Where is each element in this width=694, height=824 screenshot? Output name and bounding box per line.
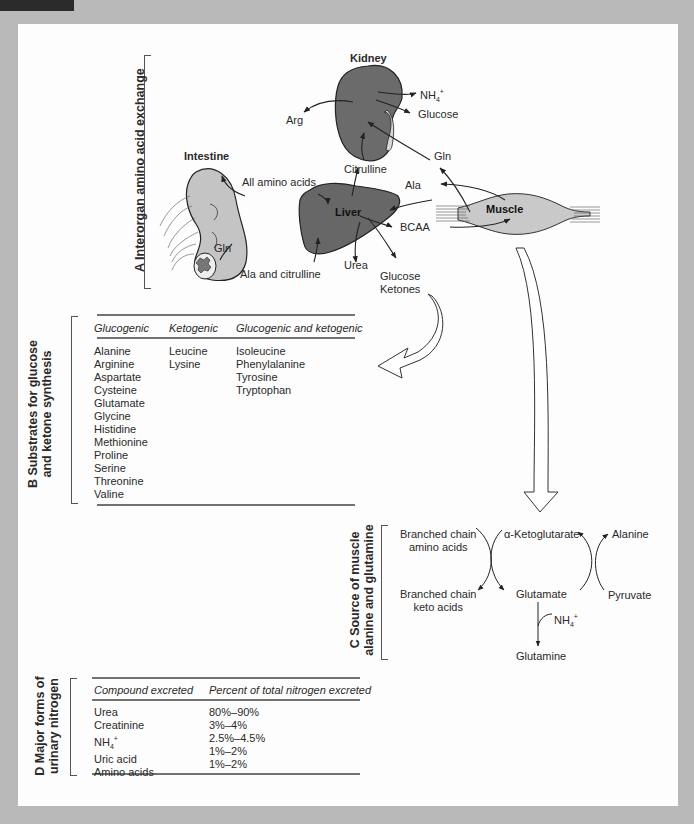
liver-label: Liver [335, 206, 361, 219]
bcka-label: Branched chain keto acids [400, 588, 476, 614]
section-d-bracket [70, 678, 77, 776]
both-list: Isoleucine Phenylalanine Tyrosine Trypto… [236, 345, 305, 397]
section-c-bracket [381, 525, 388, 660]
table-cell: NH4+ [94, 732, 154, 753]
list-item: Arginine [94, 358, 148, 371]
kidney-label: Kidney [350, 52, 387, 65]
table-cell: Amino acids [94, 766, 154, 779]
glutamine-label: Glutamine [516, 650, 566, 663]
list-item: Valine [94, 488, 148, 501]
glucogenic-list: Alanine Arginine Aspartate Cysteine Glut… [94, 345, 148, 501]
kidney-icon [335, 65, 402, 160]
glucose-kidney-label: Glucose [418, 108, 458, 121]
list-item: Aspartate [94, 371, 148, 384]
hollow-arrow-to-c [516, 248, 558, 512]
nh4-kidney-label: NH4+ [420, 85, 444, 106]
list-item: Tryptophan [236, 384, 305, 397]
gln-kidney-label: Gln [434, 150, 451, 163]
section-b-bracket [71, 316, 78, 504]
header-compound: Compound excreted [94, 684, 193, 697]
section-a-label: A Interorgan amino acid exchange [133, 72, 147, 272]
alanine-c-label: Alanine [612, 528, 649, 541]
all-amino-acids-label: All amino acids [242, 176, 316, 189]
list-item: Serine [94, 462, 148, 475]
table-cell: Creatinine [94, 719, 154, 732]
ketones-label: Ketones [380, 283, 420, 296]
list-item: Tyrosine [236, 371, 305, 384]
compound-column: Urea Creatinine NH4+ Uric acid Amino aci… [94, 706, 154, 779]
ala-muscle-label: Ala [405, 179, 421, 192]
list-item: Glycine [94, 410, 148, 423]
bcaa-c-label: Branched chain amino acids [400, 528, 476, 554]
pyruvate-label: Pyruvate [608, 589, 651, 602]
list-item: Phenylalanine [236, 358, 305, 371]
table-cell: 80%–90% [209, 706, 265, 719]
glucose-liver-label: Glucose [380, 270, 420, 283]
hollow-arrow-to-b [378, 294, 443, 378]
table-cell: Urea [94, 706, 154, 719]
header-glucogenic: Glucogenic [94, 322, 149, 335]
intestine-label: Intestine [184, 150, 229, 163]
table-cell: 2.5%–4.5% [209, 732, 265, 745]
bcaa-label: BCAA [400, 221, 430, 234]
nh4-c-label: NH4+ [554, 610, 578, 631]
section-c-label: C Source of muscle alanine and glutamine [348, 515, 376, 665]
list-item: Methionine [94, 436, 148, 449]
list-item: Threonine [94, 475, 148, 488]
table-cell: Uric acid [94, 753, 154, 766]
ala-and-citrulline-label: Ala and citrulline [240, 268, 321, 281]
header-both: Glucogenic and ketogenic [236, 322, 363, 335]
table-cell: 1%–2% [209, 745, 265, 758]
akg-label: α-Ketoglutarate [504, 528, 579, 541]
urea-label: Urea [344, 259, 368, 272]
list-item: Alanine [94, 345, 148, 358]
list-item: Leucine [169, 345, 208, 358]
list-item: Isoleucine [236, 345, 305, 358]
list-item: Histidine [94, 423, 148, 436]
glutamate-label: Glutamate [516, 588, 567, 601]
ketogenic-list: Leucine Lysine [169, 345, 208, 371]
pathway-arrows [476, 528, 608, 646]
table-cell: 3%–4% [209, 719, 265, 732]
list-item: Proline [94, 449, 148, 462]
header-ketogenic: Ketogenic [169, 322, 218, 335]
arg-label: Arg [286, 114, 303, 127]
list-item: Glutamate [94, 397, 148, 410]
citrulline-label: Citrulline [344, 163, 387, 176]
section-b-label: B Substrates for glucose and ketone synt… [26, 334, 54, 494]
percent-column: 80%–90% 3%–4% 2.5%–4.5% 1%–2% 1%–2% [209, 706, 265, 771]
section-d-label: D Major forms of urinary nitrogen [33, 671, 61, 781]
header-percent: Percent of total nitrogen excreted [209, 684, 371, 697]
table-cell: 1%–2% [209, 758, 265, 771]
gln-intestine-label: Gln [214, 242, 231, 255]
muscle-label: Muscle [486, 203, 523, 216]
intestine-icon [160, 169, 247, 281]
list-item: Lysine [169, 358, 208, 371]
list-item: Cysteine [94, 384, 148, 397]
